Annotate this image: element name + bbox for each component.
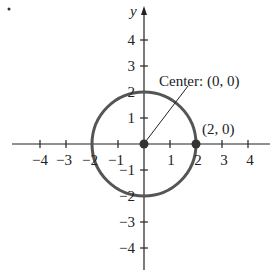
x-tick-labels: −4 −3 −2 −1 1 2 3 4 (32, 152, 254, 168)
stray-dot (8, 8, 11, 11)
svg-text:−3: −3 (56, 152, 72, 168)
svg-text:1: 1 (128, 110, 136, 126)
svg-text:−2: −2 (82, 152, 98, 168)
svg-text:3: 3 (128, 58, 136, 74)
svg-text:−4: −4 (32, 152, 48, 168)
svg-text:1: 1 (167, 152, 175, 168)
chart: y Center: (0, 0) (2, 0) −4 −3 −2 −1 1 2 … (0, 0, 270, 270)
point-label: (2, 0) (202, 121, 235, 138)
point-2-0 (192, 140, 201, 149)
center-label: Center: (0, 0) (159, 73, 239, 90)
svg-text:−1: −1 (119, 162, 135, 178)
center-point (140, 140, 149, 149)
svg-text:4: 4 (128, 32, 136, 48)
y-axis-label: y (128, 3, 137, 19)
svg-text:3: 3 (220, 152, 228, 168)
svg-text:−4: −4 (119, 240, 135, 256)
center-leader-line (146, 86, 188, 141)
y-axis-arrow-icon (141, 6, 147, 15)
svg-text:−3: −3 (119, 214, 135, 230)
svg-text:−2: −2 (119, 188, 135, 204)
svg-text:4: 4 (246, 152, 254, 168)
svg-text:2: 2 (194, 152, 202, 168)
svg-text:2: 2 (128, 84, 136, 100)
